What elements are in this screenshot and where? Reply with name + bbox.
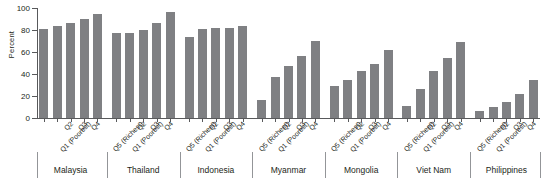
bar <box>343 80 352 119</box>
country-label: Philippines <box>473 165 540 175</box>
y-tick-label: 20 <box>21 92 30 101</box>
bar <box>330 86 339 118</box>
bar <box>80 19 89 118</box>
bar <box>271 77 280 118</box>
bar <box>489 107 498 118</box>
group-separator <box>37 152 38 178</box>
country-group-labels: MalaysiaThailandIndonesiaMyanmarMongolia… <box>37 152 540 185</box>
y-tick-label: 0 <box>26 114 30 123</box>
y-tick-mark <box>32 118 37 119</box>
bar <box>416 89 425 118</box>
country-label: Viet Nam <box>400 165 467 175</box>
bar <box>185 37 194 118</box>
group-separator <box>470 152 471 178</box>
y-tick-label: 100 <box>17 4 30 13</box>
x-tick-label: Q2 <box>63 120 75 132</box>
bar <box>443 58 452 119</box>
bar <box>139 30 148 118</box>
bar <box>456 42 465 118</box>
x-tick-label: Q4 <box>235 120 247 132</box>
bar <box>39 29 48 118</box>
grouped-bar-chart: Percent 020406080100 Q1 (Poorest)Q2Q3Q4Q… <box>0 0 546 185</box>
bar <box>384 50 393 118</box>
group-separator <box>107 152 108 178</box>
bar <box>112 33 121 118</box>
bar <box>475 111 484 118</box>
bar <box>125 33 134 118</box>
bar <box>370 64 379 118</box>
bar <box>311 41 320 118</box>
bar <box>297 56 306 118</box>
country-label: Indonesia <box>182 165 249 175</box>
bar <box>257 100 266 118</box>
country-label: Myanmar <box>255 165 322 175</box>
plot-area: 020406080100 <box>37 8 540 118</box>
bar <box>502 102 511 119</box>
x-tick-label: Q4 <box>308 120 320 132</box>
x-tick-label: Q4 <box>453 120 465 132</box>
x-tick-label: Q4 <box>90 120 102 132</box>
bar <box>53 26 62 118</box>
bar <box>402 106 411 118</box>
bar <box>515 94 524 118</box>
bar <box>198 29 207 118</box>
x-tick-label: Q4 <box>526 120 538 132</box>
country-label: Mongolia <box>328 165 395 175</box>
y-tick-label: 80 <box>21 26 30 35</box>
group-separator <box>540 152 541 178</box>
country-label: Thailand <box>110 165 177 175</box>
x-tick-label: Q4 <box>162 120 174 132</box>
country-label: Malaysia <box>37 165 104 175</box>
bar <box>152 23 161 118</box>
group-separator <box>252 152 253 178</box>
bar <box>357 71 366 118</box>
bar <box>429 71 438 118</box>
y-tick-label: 60 <box>21 48 30 57</box>
bar <box>211 28 220 118</box>
bar <box>238 26 247 118</box>
bar <box>66 23 75 118</box>
bar <box>166 12 175 118</box>
group-separator <box>180 152 181 178</box>
bar <box>284 66 293 118</box>
y-tick-label: 40 <box>21 70 30 79</box>
bar <box>93 14 102 119</box>
group-separator <box>397 152 398 178</box>
bar <box>529 80 538 119</box>
bars-layer <box>37 8 540 118</box>
group-separator <box>325 152 326 178</box>
bar <box>225 28 234 118</box>
x-tick-label: Q4 <box>380 120 392 132</box>
y-axis-title: Percent <box>7 10 16 80</box>
